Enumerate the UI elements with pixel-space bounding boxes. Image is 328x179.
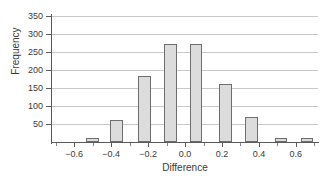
gridline <box>52 70 318 71</box>
x-tick-minor <box>93 143 94 146</box>
x-tick-label: −0.2 <box>139 150 157 159</box>
y-tick-label: 200 <box>28 66 43 75</box>
x-tick-label: 0.6 <box>290 150 303 159</box>
x-tick-minor <box>277 143 278 146</box>
gridline <box>52 124 318 125</box>
y-tick-mark <box>46 34 51 35</box>
y-tick-label: 150 <box>28 84 43 93</box>
gridline <box>52 52 318 53</box>
plot-area <box>52 16 318 142</box>
x-tick-mark <box>74 143 75 147</box>
x-tick-mark <box>296 143 297 147</box>
x-tick-minor <box>130 143 131 146</box>
y-tick-mark <box>46 70 51 71</box>
x-tick-minor <box>167 143 168 146</box>
histogram-bar <box>245 117 258 142</box>
gridline <box>52 34 318 35</box>
x-tick-label: −0.4 <box>102 150 120 159</box>
x-tick-mark <box>148 143 149 147</box>
x-axis-title: Difference <box>52 163 318 173</box>
y-tick-label: 250 <box>28 48 43 57</box>
x-tick-mark <box>185 143 186 147</box>
x-tick-minor <box>56 143 57 146</box>
x-tick-minor <box>204 143 205 146</box>
histogram-bar <box>219 84 232 142</box>
y-tick-mark <box>46 88 51 89</box>
x-tick-label: 0.4 <box>253 150 266 159</box>
y-tick-mark <box>46 52 51 53</box>
x-tick-minor <box>314 143 315 146</box>
y-tick-label: 350 <box>28 12 43 21</box>
x-tick-label: −0.6 <box>65 150 83 159</box>
y-tick-mark <box>46 124 51 125</box>
x-tick-mark <box>222 143 223 147</box>
x-tick-mark <box>259 143 260 147</box>
x-tick-mark <box>111 143 112 147</box>
x-tick-label: 0.2 <box>216 150 229 159</box>
histogram-chart: 35030025020015010050 −0.6−0.4−0.20.00.20… <box>0 0 328 179</box>
y-tick-mark <box>46 106 51 107</box>
histogram-bar <box>164 44 177 142</box>
x-tick-label: 0.0 <box>179 150 192 159</box>
y-tick-label: 100 <box>28 102 43 111</box>
histogram-bar <box>110 120 123 142</box>
histogram-bar <box>138 76 151 142</box>
gridline <box>52 88 318 89</box>
histogram-bar <box>190 44 203 142</box>
gridline <box>52 16 318 17</box>
y-tick-label: 50 <box>33 120 43 129</box>
y-tick-mark <box>46 16 51 17</box>
x-tick-minor <box>240 143 241 146</box>
y-tick-label: 300 <box>28 30 43 39</box>
y-axis-title: Frequency <box>11 7 21 95</box>
gridline <box>52 106 318 107</box>
y-axis-line <box>51 14 52 144</box>
